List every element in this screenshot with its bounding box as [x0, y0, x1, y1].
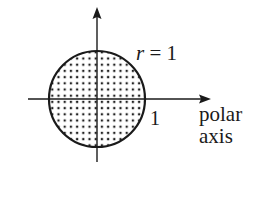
- polar-axis-label-line2: axis: [199, 125, 242, 147]
- circle-equation-label: r = 1: [136, 43, 177, 64]
- equals-sign: =: [144, 41, 166, 65]
- polar-axis-label-line1: polar: [199, 103, 242, 125]
- radius-tick-label: 1: [150, 108, 160, 128]
- radius-value: 1: [167, 41, 178, 65]
- r-variable: r: [136, 41, 144, 65]
- polar-axis-label: polar axis: [199, 103, 242, 147]
- polar-disk-diagram: r = 1 1 polar axis: [0, 0, 270, 205]
